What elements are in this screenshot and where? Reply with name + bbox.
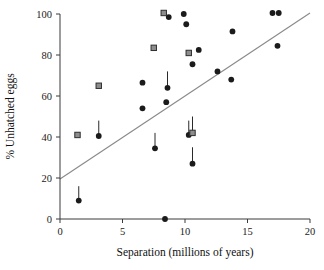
axes-group bbox=[60, 14, 310, 219]
data-point-circle bbox=[140, 80, 146, 86]
data-point-circle bbox=[190, 61, 196, 67]
x-tick-label: 0 bbox=[57, 226, 62, 237]
y-tick-labels: 020406080100 bbox=[36, 9, 52, 225]
y-tick-label: 60 bbox=[42, 91, 53, 102]
tick-marks-group bbox=[56, 14, 310, 223]
data-point-circle bbox=[190, 161, 196, 167]
data-point-circle bbox=[215, 69, 221, 75]
data-point-circle bbox=[76, 198, 82, 204]
data-point-circle bbox=[228, 77, 234, 83]
data-point-circle bbox=[152, 145, 158, 151]
data-point-circle bbox=[96, 133, 102, 139]
regression-line bbox=[60, 13, 310, 179]
data-point-square bbox=[186, 50, 191, 55]
x-tick-labels: 05101520 bbox=[57, 226, 315, 237]
data-point-square bbox=[151, 45, 156, 50]
y-tick-label: 100 bbox=[36, 9, 52, 20]
regression-line-group bbox=[60, 13, 310, 179]
data-point-circle bbox=[162, 216, 168, 222]
data-point-circle bbox=[140, 105, 146, 111]
data-point-square bbox=[190, 130, 195, 135]
y-tick-label: 40 bbox=[42, 132, 53, 143]
data-point-circle bbox=[275, 43, 281, 49]
x-tick-label: 20 bbox=[305, 226, 316, 237]
plot-area: 05101520 020406080100 Separation (millio… bbox=[0, 0, 324, 270]
data-point-circle bbox=[270, 10, 276, 16]
data-points-group bbox=[75, 10, 282, 222]
x-axis-title: Separation (millions of years) bbox=[116, 246, 253, 259]
y-tick-label: 0 bbox=[47, 214, 52, 225]
y-tick-label: 80 bbox=[42, 50, 53, 61]
data-point-circle bbox=[163, 99, 169, 105]
data-point-circle bbox=[181, 11, 187, 17]
data-point-circle bbox=[276, 10, 282, 16]
y-axis-title: % Unhatched eggs bbox=[4, 73, 17, 160]
x-tick-label: 10 bbox=[180, 226, 191, 237]
data-point-circle bbox=[230, 29, 236, 35]
data-point-square bbox=[96, 83, 101, 88]
data-point-circle bbox=[165, 85, 171, 91]
x-tick-label: 5 bbox=[120, 226, 125, 237]
data-point-square bbox=[75, 132, 80, 137]
scatter-chart: 05101520 020406080100 Separation (millio… bbox=[0, 0, 324, 270]
x-tick-label: 15 bbox=[242, 226, 253, 237]
y-tick-label: 20 bbox=[42, 173, 53, 184]
data-point-circle bbox=[183, 21, 189, 27]
data-point-square bbox=[161, 10, 166, 15]
data-point-circle bbox=[196, 47, 202, 53]
error-bars-group bbox=[79, 71, 193, 200]
